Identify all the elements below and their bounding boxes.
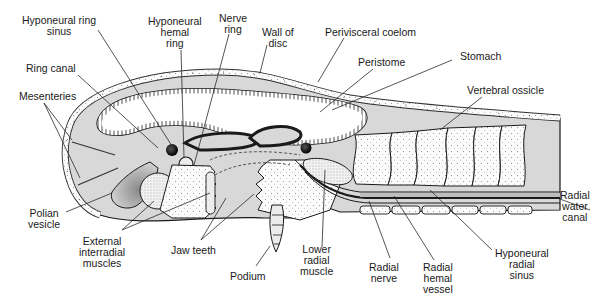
label-radial-hemal-vessel: Radial hemal vessel <box>423 262 453 295</box>
label-jaw-teeth: Jaw teeth <box>171 245 216 256</box>
label-peristome: Peristome <box>358 57 405 68</box>
label-polian-vesicle: Polian vesicle <box>28 208 60 230</box>
label-ring-canal: Ring canal <box>26 63 76 74</box>
label-nerve-ring: Nerve ring <box>219 13 247 35</box>
nerve-ring-node-right <box>301 143 312 154</box>
label-radial-nerve: Radial nerve <box>369 262 399 284</box>
label-perivisceral-coelom: Perivisceral coelom <box>325 27 416 38</box>
vertebral-ossicles <box>353 125 526 186</box>
label-radial-water-canal: Radial water canal <box>560 190 590 223</box>
label-mesenteries: Mesenteries <box>19 91 76 102</box>
label-hyponeural-hemal-ring: Hyponeural hemal ring <box>148 16 202 49</box>
label-podium: Podium <box>230 271 266 282</box>
jaw-ossicle <box>206 172 215 214</box>
label-hyponeural-ring-sinus: Hyponeural ring sinus <box>22 15 96 37</box>
podium <box>270 205 284 252</box>
label-wall-of-disc: Wall of disc <box>262 27 294 49</box>
label-vertebral-ossicle: Vertebral ossicle <box>467 85 544 96</box>
label-hyponeural-radial-sinus: Hyponeural radial sinus <box>495 248 549 281</box>
label-lower-radial-muscle: Lower radial muscle <box>300 244 333 277</box>
label-external-interradial-muscles: External interradial muscles <box>79 236 125 269</box>
label-stomach: Stomach <box>460 51 501 62</box>
